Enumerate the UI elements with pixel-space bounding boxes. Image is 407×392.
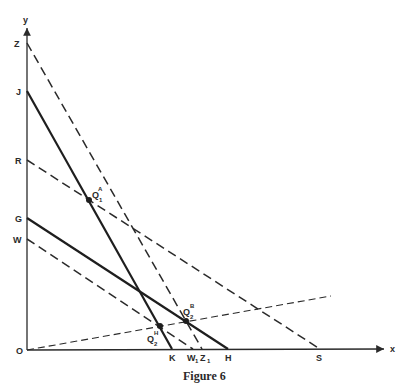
label-j: J <box>16 87 21 97</box>
svg-text:B: B <box>190 303 195 309</box>
y-axis-label: y <box>23 15 28 25</box>
label-w: W <box>13 235 22 245</box>
line-g-h <box>27 218 228 349</box>
svg-text:2: 2 <box>190 314 194 320</box>
svg-text:Z: Z <box>200 353 206 363</box>
line-w-w1 <box>27 239 193 349</box>
line-r-s <box>27 160 320 349</box>
label-w1: W 1 <box>187 353 199 364</box>
svg-text:1: 1 <box>99 197 103 203</box>
svg-text:Q: Q <box>147 334 154 344</box>
label-z: Z <box>14 39 20 49</box>
line-j-k <box>27 91 172 349</box>
label-s: S <box>316 353 322 363</box>
label-z1: Z 1 <box>200 353 211 364</box>
x-axis-label: x <box>390 344 395 354</box>
point-q2h <box>157 323 163 329</box>
label-r: R <box>15 156 22 166</box>
x-axis <box>27 349 384 350</box>
svg-text:2: 2 <box>154 341 158 347</box>
svg-text:1: 1 <box>207 358 211 364</box>
point-q2b <box>183 318 189 324</box>
economics-diagram: y x O Z J R G W Q 1 A Q 2 H Q 2 B K W 1 … <box>0 0 407 392</box>
label-g: G <box>15 214 22 224</box>
svg-text:Q: Q <box>183 307 190 317</box>
svg-text:1: 1 <box>195 358 199 364</box>
label-k: K <box>169 353 176 363</box>
label-q2h: Q 2 H <box>147 330 158 347</box>
figure-caption: Figure 6 <box>183 369 226 383</box>
ray-from-origin <box>27 296 331 350</box>
line-z-z1 <box>27 43 202 349</box>
svg-text:H: H <box>154 330 158 336</box>
label-q1a: Q 1 A <box>92 186 103 203</box>
svg-text:A: A <box>98 186 103 192</box>
label-h: H <box>225 353 232 363</box>
origin-label: O <box>16 346 23 356</box>
